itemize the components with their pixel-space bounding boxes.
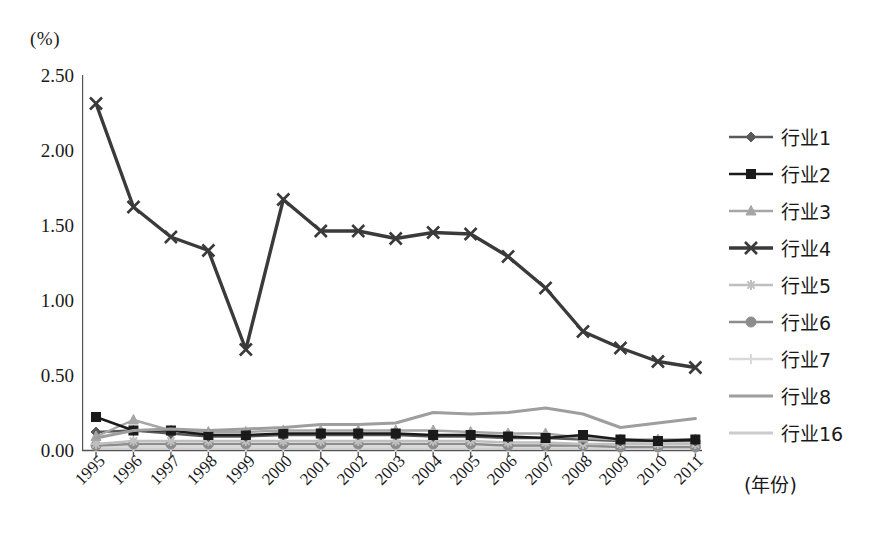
y-axis-tick-label: 0.00 <box>12 441 74 460</box>
legend-item-label: 行业3 <box>781 197 831 224</box>
legend-item[interactable]: 行业8 <box>728 377 878 414</box>
x-axis-tick-label: 2011 <box>671 452 707 488</box>
x-axis-tick-label: 2005 <box>447 452 483 488</box>
legend-item-label: 行业2 <box>781 160 831 187</box>
square-marker <box>728 164 774 184</box>
chart-legend: 行业1行业2行业3行业4行业5行业6行业7行业8行业16 <box>728 118 878 451</box>
legend-item[interactable]: 行业1 <box>728 118 878 155</box>
x-axis-tick-label: 2002 <box>334 452 370 488</box>
cross-marker <box>728 238 774 258</box>
y-axis-tick-label: 0.50 <box>12 366 74 385</box>
x-axis-tick-label: 1996 <box>109 452 145 488</box>
y-axis-tick-label: 2.00 <box>12 141 74 160</box>
legend-item-label: 行业7 <box>781 345 831 372</box>
legend-item-label: 行业5 <box>781 271 831 298</box>
y-axis-tick-label: 1.50 <box>12 216 74 235</box>
x-axis-tick-label: 1998 <box>184 452 220 488</box>
x-axis-tick-label: 2000 <box>259 452 295 488</box>
legend-item[interactable]: 行业6 <box>728 303 878 340</box>
legend-item-label: 行业16 <box>781 419 843 446</box>
x-axis-tick-label: 2004 <box>409 452 445 488</box>
legend-item-label: 行业1 <box>781 123 831 150</box>
x-axis-tick-label: 2008 <box>559 452 595 488</box>
legend-item[interactable]: 行业16 <box>728 414 878 451</box>
line-marker <box>728 423 774 443</box>
diamond-marker <box>728 127 774 147</box>
x-axis-tick-label: 2010 <box>634 452 670 488</box>
triangle-marker <box>728 201 774 221</box>
x-axis-title: (年份) <box>744 470 797 497</box>
plot-area <box>82 75 702 450</box>
x-axis-tick-label: 1997 <box>147 452 183 488</box>
x-axis-tick-label: 1999 <box>222 452 258 488</box>
y-axis-tick-label: 1.00 <box>12 291 74 310</box>
x-axis-tick-labels: 1995199619971998199920002001200220032004… <box>82 452 722 522</box>
legend-item-label: 行业6 <box>781 308 831 335</box>
legend-item[interactable]: 行业5 <box>728 266 878 303</box>
x-axis-tick-label: 1995 <box>72 452 108 488</box>
x-axis-tick-label: 2006 <box>484 452 520 488</box>
line-chart: (%) 2.502.001.501.000.500.00 19951996199… <box>0 0 883 535</box>
line-marker <box>728 386 774 406</box>
x-axis-tick-label: 2003 <box>372 452 408 488</box>
star-marker <box>728 275 774 295</box>
legend-item[interactable]: 行业3 <box>728 192 878 229</box>
circle-marker <box>728 312 774 332</box>
x-axis-tick-label: 2009 <box>596 452 632 488</box>
legend-item[interactable]: 行业7 <box>728 340 878 377</box>
legend-item-label: 行业8 <box>781 382 831 409</box>
legend-item[interactable]: 行业2 <box>728 155 878 192</box>
y-axis-tick-label: 2.50 <box>12 66 74 85</box>
y-axis-tick-labels: 2.502.001.501.000.500.00 <box>8 0 74 535</box>
x-axis-tick-label: 2001 <box>297 452 333 488</box>
legend-item[interactable]: 行业4 <box>728 229 878 266</box>
legend-item-label: 行业4 <box>781 234 831 261</box>
plus-marker <box>728 349 774 369</box>
x-axis-tick-label: 2007 <box>521 452 557 488</box>
